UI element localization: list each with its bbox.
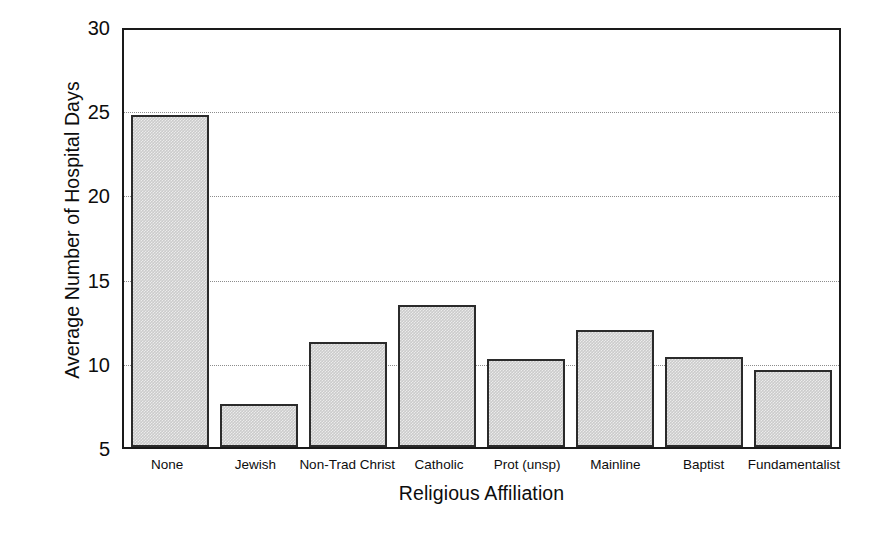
- y-axis-tick-label: 10: [48, 355, 110, 375]
- bar-slot: [303, 30, 392, 447]
- bar-slot: [660, 30, 749, 447]
- y-axis-tick-label: 25: [48, 102, 110, 122]
- bar[interactable]: [131, 115, 209, 447]
- bar[interactable]: [220, 404, 298, 447]
- y-axis-tick-label: 15: [48, 271, 110, 291]
- y-axis-tick-label: 30: [48, 18, 110, 38]
- bar[interactable]: [576, 330, 654, 447]
- bar-slot: [749, 30, 838, 447]
- bar-slot: [125, 30, 214, 447]
- x-axis-tick-labels: NoneJewishNon-Trad ChristCatholicProt (u…: [122, 455, 841, 477]
- bar-slot: [214, 30, 303, 447]
- bar-chart-figure: Average Number of Hospital Days 51015202…: [0, 0, 875, 537]
- bar[interactable]: [309, 342, 387, 447]
- x-axis-tick-label: Baptist: [659, 455, 747, 477]
- x-axis-tick-label: Mainline: [571, 455, 659, 477]
- bar-slot: [482, 30, 571, 447]
- bar[interactable]: [665, 357, 743, 447]
- bar[interactable]: [754, 370, 832, 447]
- y-axis-tick-label: 20: [48, 186, 110, 206]
- x-axis-tick-label: Jewish: [211, 455, 299, 477]
- plot-area: [122, 28, 841, 449]
- x-axis-tick-label: None: [123, 455, 211, 477]
- y-axis-tick-label: 5: [48, 439, 110, 459]
- bar-series: [124, 30, 839, 447]
- x-axis-title: Religious Affiliation: [122, 482, 841, 505]
- bar-slot: [392, 30, 481, 447]
- x-axis-tick-label: Prot (unsp): [483, 455, 571, 477]
- y-axis-tick-labels: 51015202530: [48, 0, 110, 537]
- bar[interactable]: [487, 359, 565, 447]
- x-axis-tick-label: Catholic: [395, 455, 483, 477]
- x-axis-tick-label: Fundamentalist: [748, 455, 840, 477]
- bar[interactable]: [398, 305, 476, 447]
- bar-slot: [571, 30, 660, 447]
- x-axis-tick-label: Non-Trad Christ: [299, 455, 395, 477]
